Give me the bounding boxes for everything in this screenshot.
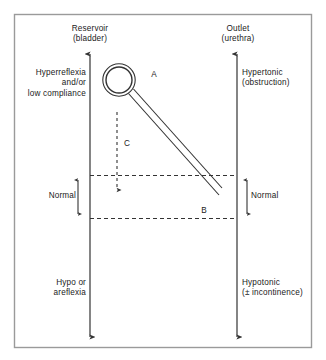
reservoir-hyperreflexia-label: Hyperreflexia and/or low compliance xyxy=(10,68,86,99)
outlet-heading: Outlet (urethra) xyxy=(192,24,284,45)
diagram-canvas: Reservoir (bladder) Outlet (urethra) Hyp… xyxy=(0,0,326,360)
outlet-hypotonic-label: Hypotonic (± incontinence) xyxy=(242,278,326,299)
marker-label-a: A xyxy=(148,70,160,80)
outlet-normal-label: Normal xyxy=(251,191,297,201)
marker-label-c: C xyxy=(121,139,133,149)
reservoir-hyporeflexia-label: Hypo or areflexia xyxy=(10,278,86,299)
diagram-vector-layer xyxy=(0,0,326,360)
balloon-catheter-inner-ring-icon xyxy=(106,67,132,93)
reservoir-heading: Reservoir (bladder) xyxy=(44,24,136,45)
marker-label-b: B xyxy=(198,206,210,216)
reservoir-normal-label: Normal xyxy=(30,191,76,201)
outlet-hypertonic-label: Hypertonic (obstruction) xyxy=(242,68,324,89)
